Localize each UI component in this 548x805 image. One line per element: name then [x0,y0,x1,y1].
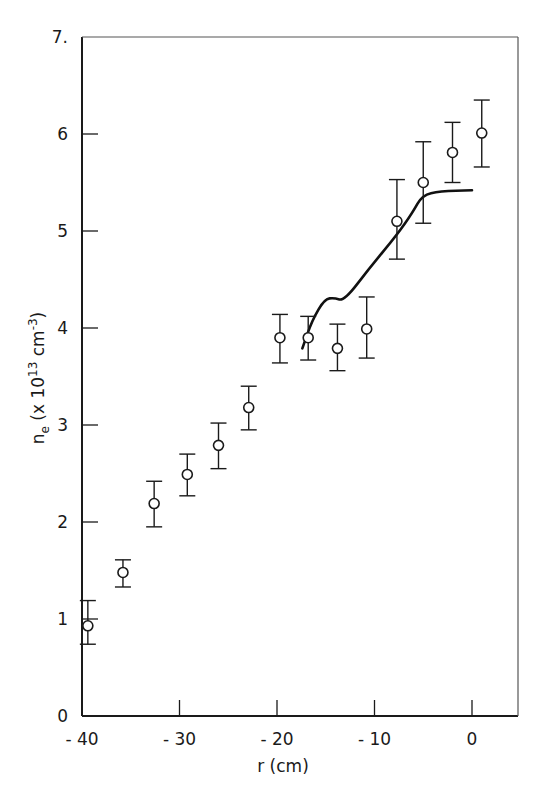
fit-curve [302,190,472,348]
data-point [146,481,162,527]
open-circle-marker [275,333,285,343]
density-profile-chart: 01234567. - 40- 30- 20- 100 r (cm) ne (x… [0,0,548,805]
open-circle-marker [149,499,159,509]
open-circle-marker [182,469,192,479]
open-circle-marker [392,216,402,226]
x-tick-label: - 10 [358,729,391,749]
data-point [329,324,345,371]
data-point [415,142,431,223]
y-tick-label: 4 [57,318,68,338]
open-circle-marker [303,333,313,343]
y-tick-label: 2 [57,512,68,532]
data-points [80,100,490,644]
data-point [241,386,257,430]
open-circle-marker [332,343,342,353]
open-circle-marker [448,147,458,157]
data-point [211,423,227,469]
x-axis-ticks: - 40- 30- 20- 100 [65,700,477,749]
x-tick-label: - 20 [260,729,293,749]
data-point [300,316,316,360]
x-tick-label: - 30 [163,729,196,749]
open-circle-marker [362,324,372,334]
data-point [272,314,288,363]
curve-line [302,190,472,348]
open-circle-marker [477,128,487,138]
open-circle-marker [214,440,224,450]
y-tick-label: 1 [57,609,68,629]
y-tick-label: 3 [57,415,68,435]
data-point [179,454,195,496]
data-point [359,297,375,358]
open-circle-marker [118,567,128,577]
data-point [474,100,490,167]
y-axis-label: ne (x 1013 cm-3) [26,312,52,445]
open-circle-marker [418,178,428,188]
open-circle-marker [83,621,93,631]
open-circle-marker [244,403,254,413]
x-tick-label: 0 [467,729,478,749]
y-tick-label: 7. [52,27,68,47]
y-axis-label-text: ne (x 1013 cm-3) [26,312,52,445]
x-tick-label: - 40 [65,729,98,749]
y-tick-label: 5 [57,221,68,241]
y-tick-label: 0 [57,706,68,726]
data-point [445,122,461,182]
y-tick-label: 6 [57,124,68,144]
data-point [389,180,405,260]
data-point [115,560,131,587]
x-axis-label: r (cm) [257,756,309,776]
